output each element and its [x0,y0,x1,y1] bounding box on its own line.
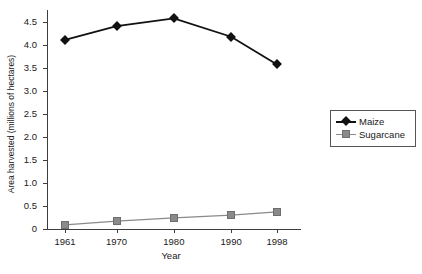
legend-key-maize [336,115,356,128]
legend-key-sugarcane [336,128,356,141]
y-tick: 0 [43,229,47,230]
y-tick-label: 3.0 [24,85,37,96]
x-tick [65,229,66,233]
legend-item-maize: Maize [336,115,410,128]
x-tick [117,229,118,233]
data-point-sugarcane-1998 [273,208,281,216]
chart-figure: Area harvested (millions of hectares) Ye… [0,0,422,274]
y-tick-label: 2.0 [24,131,37,142]
series-lines [47,10,295,229]
x-tick-label: 1980 [163,236,184,247]
y-tick-label: 0 [32,223,37,234]
y-axis-title: Area harvested (millions of hectares) [3,4,19,244]
data-point-sugarcane-1970 [113,217,121,225]
y-tick-label: 2.5 [24,108,37,119]
diamond-marker-icon [341,116,351,126]
legend-label-sugarcane: Sugarcane [356,129,405,140]
y-tick-label: 1.0 [24,177,37,188]
y-tick-label: 1.5 [24,154,37,165]
square-marker-icon [342,130,350,138]
x-tick-label: 1961 [54,236,75,247]
chart-legend: Maize Sugarcane [330,110,416,147]
line-maize [65,18,277,64]
data-point-sugarcane-1980 [170,214,178,222]
x-tick [174,229,175,233]
y-tick-label: 3.5 [24,62,37,73]
x-tick-label: 1990 [221,236,242,247]
x-tick [277,229,278,233]
y-tick-label: 4.0 [24,39,37,50]
legend-item-sugarcane: Sugarcane [336,128,410,141]
y-tick-label: 4.5 [24,16,37,27]
data-point-sugarcane-1961 [61,221,69,229]
x-tick-label: 1970 [106,236,127,247]
plot-area: 00.51.01.52.02.53.03.54.04.5 19611970198… [47,10,295,229]
x-tick-label: 1998 [266,236,287,247]
y-tick-label: 0.5 [24,200,37,211]
data-point-sugarcane-1990 [227,211,235,219]
x-tick [231,229,232,233]
legend-label-maize: Maize [356,116,384,127]
x-axis-title: Year [47,250,295,261]
